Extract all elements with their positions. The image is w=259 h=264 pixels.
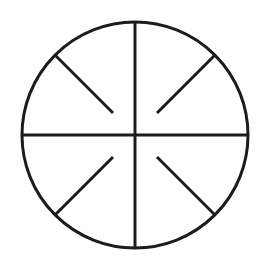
spoke-bottom-right <box>157 157 215 215</box>
spoke-top-left <box>55 55 113 113</box>
wheel-symbol-icon <box>0 0 259 264</box>
spoke-top-right <box>157 55 215 113</box>
diagram-canvas <box>0 0 259 264</box>
spoke-bottom-left <box>55 157 113 215</box>
